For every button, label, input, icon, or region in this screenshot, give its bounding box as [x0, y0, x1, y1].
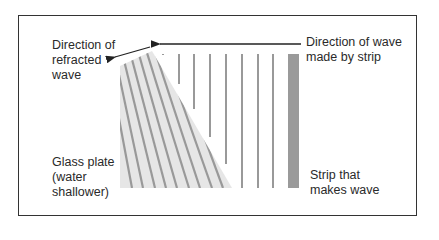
label-wave-direction: Direction of wave made by strip	[306, 35, 402, 65]
label-glass-plate: Glass plate (water shallower)	[52, 155, 115, 200]
label-refracted-direction: Direction of refracted wave	[52, 38, 115, 83]
wave-strip	[288, 54, 299, 188]
label-strip: Strip that makes wave	[310, 168, 379, 198]
